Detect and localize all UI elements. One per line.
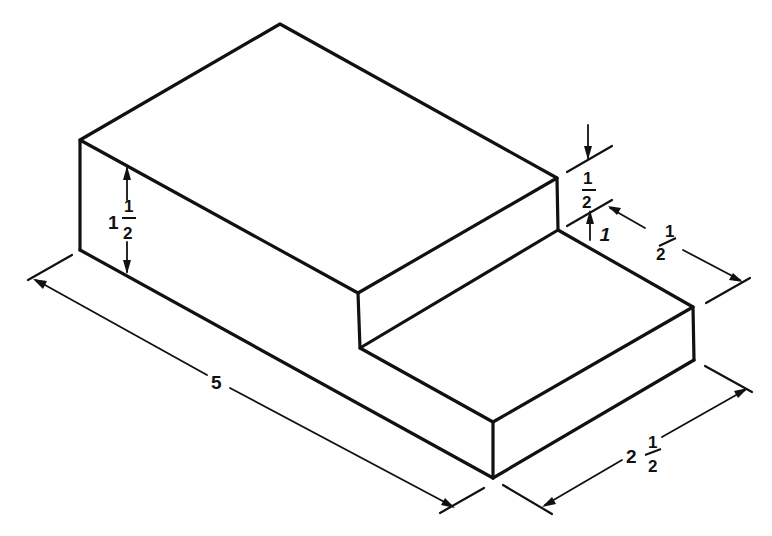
step-depth-whole: 1 — [598, 224, 613, 245]
dimension-tall-height: 1 1 2 — [108, 166, 136, 274]
tall-height-den: 2 — [123, 224, 132, 243]
step-drop-den: 2 — [582, 193, 591, 212]
tall-height-whole: 1 — [108, 212, 119, 233]
tall-block-top-face — [80, 24, 557, 293]
low-block-right-edge — [693, 307, 694, 360]
bottom-long-edge — [80, 250, 493, 478]
stepped-block — [80, 24, 694, 478]
riser-front-edge — [358, 293, 360, 348]
width-whole: 2 — [626, 446, 637, 467]
dimension-width: 2 1 2 — [503, 366, 752, 514]
width-num: 1 — [648, 433, 657, 452]
isometric-drawing: 1 1 2 5 1 2 1 1 2 — [0, 0, 772, 536]
dimension-step-drop: 1 2 — [567, 125, 612, 240]
riser-back-edge — [557, 178, 558, 230]
dimension-step-depth: 1 1 2 — [598, 206, 750, 303]
width-den: 2 — [648, 457, 657, 476]
dimension-length: 5 — [28, 255, 484, 513]
step-depth-num: 1 — [665, 222, 674, 241]
tall-height-num: 1 — [124, 197, 133, 216]
step-top-face — [360, 230, 693, 422]
step-drop-num: 1 — [583, 169, 592, 188]
low-block-bottom-edge — [493, 360, 694, 478]
step-depth-den: 2 — [656, 245, 665, 264]
length-value: 5 — [211, 372, 222, 393]
